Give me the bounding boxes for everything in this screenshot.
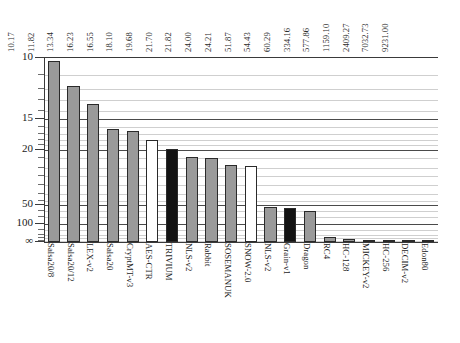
category-label: SOSEMANUK [220, 243, 236, 327]
category-label: Grain-v1 [279, 243, 295, 327]
gridline-minor [44, 168, 438, 169]
y-axis-label: 50 [0, 198, 33, 209]
gridline-minor [44, 201, 438, 202]
y-tick-minor [38, 157, 44, 158]
y-tick-minor [38, 74, 44, 75]
y-tick-minor [38, 99, 44, 100]
bar-cryptmt-v3 [127, 131, 139, 242]
bar-hc-128 [343, 239, 355, 242]
gridline-minor [44, 158, 438, 159]
bar-trivium [166, 149, 178, 242]
y-axis-line [44, 57, 45, 242]
y-axis-label: 10 [0, 51, 33, 62]
y-axis-label: 15 [0, 112, 33, 123]
bar-sosemanuk [225, 165, 237, 242]
bar-salsa20-8 [48, 61, 60, 242]
gridline-minor [44, 217, 438, 218]
gridline-minor [44, 185, 438, 186]
gridline-minor [44, 241, 438, 242]
category-label-row: Salsa20/8Salsa20/12LEX-v2Salsa20CryptMT-… [0, 243, 460, 327]
category-label: NLS-v2 [181, 243, 197, 327]
gridline-major [44, 205, 438, 206]
bar-snow-2-0 [245, 166, 257, 242]
gridline-minor [44, 176, 438, 177]
bar-edon80 [422, 240, 434, 242]
y-tick-minor [38, 229, 44, 230]
bar-mickey-v2 [363, 240, 375, 242]
gridline-major [44, 150, 438, 151]
bar-rc4 [324, 237, 336, 243]
category-label: Salsa20/8 [43, 243, 59, 327]
value-label-row: 10.1711.8213.3416.2316.5518.1019.6821.70… [0, 0, 460, 52]
gridline-minor [44, 140, 438, 141]
bar-aes-ctr [146, 140, 158, 242]
y-tick-minor [38, 240, 44, 241]
gridline-minor [44, 211, 438, 212]
gridline-minor [44, 230, 438, 231]
gridline-major [44, 224, 438, 225]
bar-grain-v1 [284, 208, 296, 242]
category-label: MICKEY-v2 [358, 243, 374, 327]
gridline-minor [44, 235, 438, 236]
y-tick-minor [38, 237, 44, 238]
gridline-minor [44, 100, 438, 101]
category-label: SNOW-2.0 [240, 243, 256, 327]
y-tick-minor [38, 184, 44, 185]
category-label: RC4 [319, 243, 335, 327]
bar-hc-256 [383, 240, 395, 242]
gridline-minor [44, 89, 438, 90]
value-label: 9231.00 [380, 0, 432, 52]
gridline-minor [44, 111, 438, 112]
category-label: DECIM-v2 [397, 243, 413, 327]
gridline-minor [44, 194, 438, 195]
y-tick-major [35, 149, 44, 150]
category-label: NLS-v2 [260, 243, 276, 327]
gridline-minor [44, 238, 438, 239]
y-tick-major [35, 223, 44, 224]
bar-salsa20-12 [67, 86, 79, 242]
category-label: HC-128 [338, 243, 354, 327]
y-tick-minor [38, 133, 44, 134]
gridline-minor [44, 134, 438, 135]
category-label: Salsa20/12 [63, 243, 79, 327]
category-label: LEX-v2 [82, 243, 98, 327]
y-tick-minor [38, 175, 44, 176]
y-tick-minor [38, 88, 44, 89]
category-label: HC-256 [378, 243, 394, 327]
category-label: AES-CTR [141, 243, 157, 327]
y-tick-major [35, 241, 44, 242]
y-tick-minor [38, 126, 44, 127]
gridline-minor [44, 75, 438, 76]
gridline-minor [44, 127, 438, 128]
y-axis-label: 20 [0, 143, 33, 154]
y-tick-minor [38, 139, 44, 140]
y-tick-minor [38, 144, 44, 145]
gridline-minor [44, 145, 438, 146]
y-tick-minor [38, 167, 44, 168]
bar-nls-v2 [264, 207, 276, 242]
bar-salsa20 [107, 129, 119, 242]
y-tick-minor [38, 210, 44, 211]
y-axis-label: 100 [0, 217, 33, 228]
category-label: Salsa20 [102, 243, 118, 327]
plot-area [44, 57, 438, 243]
y-tick-minor [38, 200, 44, 201]
bar-dragon [304, 211, 316, 242]
category-label: CryptMT-v3 [122, 243, 138, 327]
bar-decim-v2 [402, 240, 414, 242]
y-tick-minor [38, 216, 44, 217]
category-label: Rabbit [200, 243, 216, 327]
bar-lex-v2 [87, 104, 99, 242]
y-tick-minor [38, 193, 44, 194]
bar-nls-v2 [186, 157, 198, 242]
category-label: Edon80 [417, 243, 433, 327]
y-tick-minor [38, 234, 44, 235]
y-tick-major [35, 204, 44, 205]
category-label: Dragon [299, 243, 315, 327]
category-label: TRIVIUM [161, 243, 177, 327]
y-tick-major [35, 118, 44, 119]
bar-rabbit [205, 158, 217, 242]
y-tick-minor [38, 110, 44, 111]
gridline-major [44, 119, 438, 120]
figure-bar-chart: 10.1711.8213.3416.2316.5518.1019.6821.70… [0, 0, 460, 343]
